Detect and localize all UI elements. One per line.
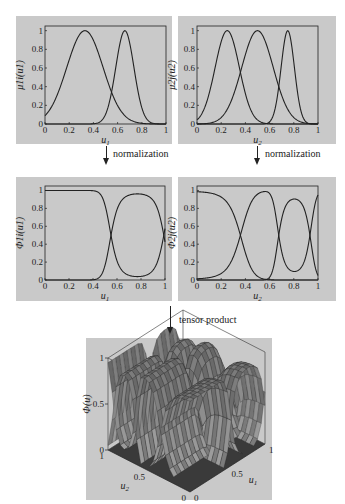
curve-phi21 [197,192,318,280]
arrow-normalization-right-label: normalization [265,148,321,159]
y-tick-label: 0.8 [184,203,196,213]
arrow-tensor-product [170,306,171,328]
x-tick-label: 1 [316,125,321,135]
y-tick-label: 0.2 [184,100,195,110]
u2-tick-label: 1 [100,451,105,461]
x-tick-label: 0.8 [288,281,300,291]
y-tick-label: 1 [191,26,196,36]
y-tick-label: 0.4 [32,239,44,249]
z-tick-label: 1 [100,353,105,363]
y-tick-label: 0.4 [184,239,196,249]
curve-mu11 [45,31,166,124]
chart-mu1: 00.20.40.60.8100.20.40.60.81u1μ1i(u1) [14,26,168,147]
x-tick-label: 0.2 [216,281,227,291]
y-axis-label: Φ2j(u2) [166,216,178,249]
chart-phi3d: 00.5100.5100.51u1u2Φ(u) [81,310,274,503]
y-tick-label: 0.4 [184,82,196,92]
y-tick-label: 1 [39,185,44,195]
x-tick-label: 0.2 [64,125,75,135]
u2-tick-label: 0 [182,493,187,503]
u1-tick-label: 1 [269,445,274,455]
x-tick-label: 0 [195,125,200,135]
x-tick-label: 0 [43,281,48,291]
u2-axis-label: u2 [121,480,130,493]
x-tick-label: 0.6 [264,281,276,291]
y-tick-label: 0.6 [184,221,196,231]
y-tick-label: 0.8 [32,44,44,54]
u2-tick-label: 0.5 [134,472,146,482]
y-tick-label: 0.8 [184,44,196,54]
curve-mu22 [197,31,318,124]
x-tick-label: 0.4 [88,125,100,135]
curve-mu23 [197,31,318,124]
y-tick-label: 0.6 [184,63,196,73]
y-tick-label: 0.2 [32,100,43,110]
y-axis-label: Φ1i(u1) [14,216,26,249]
x-tick-label: 0 [43,125,48,135]
y-tick-label: 0.2 [184,257,195,267]
curve-mu21 [197,31,318,124]
y-tick-label: 0.6 [32,221,44,231]
arrow-tensor-product-label: tensor product [179,314,237,325]
u1-axis-label: u1 [249,474,258,487]
x-tick-label: 0.8 [135,281,147,291]
plot-frame [197,186,318,280]
x-tick-label: 1 [164,125,169,135]
x-tick-label: 0.4 [240,125,252,135]
y-tick-label: 0.6 [32,63,44,73]
z-axis-label: Φ(u) [81,394,93,414]
x-tick-label: 0.6 [111,281,123,291]
x-tick-label: 0.4 [240,281,252,291]
y-tick-label: 0 [191,119,196,129]
arrow-tensor-product-head [167,327,173,334]
x-tick-label: 0.8 [288,125,300,135]
x-axis-label: u2 [253,290,262,303]
y-tick-label: 1 [39,26,44,36]
y-tick-label: 0.2 [32,257,43,267]
x-tick-label: 0 [195,281,200,291]
x-tick-label: 0.6 [264,125,276,135]
x-tick-label: 1 [316,281,321,291]
y-tick-label: 1 [191,185,196,195]
y-tick-label: 0.4 [32,82,44,92]
x-tick-label: 0.2 [216,125,227,135]
arrow-normalization-left-label: normalization [113,148,169,159]
y-tick-label: 0 [39,275,44,285]
arrow-normalization-left-head [103,158,109,165]
arrow-normalization-right-head [254,158,260,165]
x-tick-label: 1 [163,281,168,291]
z-tick-label: 0.5 [93,399,105,409]
y-tick-label: 0 [39,119,44,129]
curve-phi22 [197,192,318,279]
y-tick-label: 0.8 [32,203,44,213]
x-tick-label: 0.4 [87,281,99,291]
u1-tick-label: 0 [194,493,199,503]
y-axis-label: μ1i(u1) [14,60,26,91]
x-tick-label: 0.2 [63,281,74,291]
x-tick-label: 0.6 [112,125,124,135]
y-axis-label: μ2j(u2) [166,60,178,91]
x-axis-label: u1 [101,290,110,303]
chart-phi1: 00.20.40.60.8100.20.40.60.81u1Φ1i(u1) [14,185,167,303]
figure-canvas: 00.20.40.60.8100.20.40.60.81u1μ1i(u1)00.… [0,0,345,504]
u1-tick-label: 0.5 [232,469,244,479]
plot-frame [197,26,318,124]
y-tick-label: 0 [191,275,196,285]
curve-phi23 [197,199,318,280]
chart-phi2: 00.20.40.60.8100.20.40.60.81u2Φ2j(u2) [166,185,320,303]
x-tick-label: 0.8 [136,125,148,135]
chart-mu2: 00.20.40.60.8100.20.40.60.81u2μ2j(u2) [166,26,320,147]
